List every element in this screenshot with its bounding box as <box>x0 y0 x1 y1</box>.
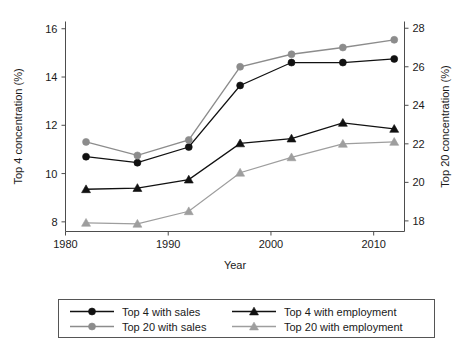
data-point <box>185 144 192 151</box>
y2-axis-tick-label: 22 <box>413 138 425 150</box>
series-line <box>86 40 394 156</box>
y2-axis-tick-label: 18 <box>413 215 425 227</box>
legend-item-label: Top 20 with sales <box>122 321 207 333</box>
data-point <box>237 63 244 70</box>
y2-axis-tick-label: 20 <box>413 176 425 188</box>
data-point <box>288 59 295 66</box>
data-point <box>391 36 398 43</box>
data-point <box>134 152 141 159</box>
series-3 <box>82 138 399 228</box>
data-point <box>237 82 244 89</box>
y2-axis-tick-label: 28 <box>413 22 425 34</box>
y-axis-tick-label: 14 <box>45 71 57 83</box>
data-point <box>185 136 192 143</box>
chart-svg: 8101214161820222426281980199020002010Top… <box>0 0 468 351</box>
series-line <box>86 59 394 163</box>
y-axis-tick-label: 16 <box>45 23 57 35</box>
data-point <box>184 207 193 215</box>
legend-circle-marker <box>89 308 96 315</box>
y-axis-tick-label: 8 <box>51 216 57 228</box>
legend-item-label: Top 20 with employment <box>284 321 403 333</box>
x-axis-title: Year <box>224 259 247 271</box>
data-point <box>184 175 193 183</box>
data-point <box>339 59 346 66</box>
y-axis-title: Top 4 concentration (%) <box>12 68 24 184</box>
data-point <box>83 138 90 145</box>
data-point <box>338 119 347 127</box>
axis-frame <box>66 22 405 232</box>
y2-axis-title: Top 20 concentration (%) <box>439 65 451 187</box>
x-axis-tick-label: 2000 <box>259 238 283 250</box>
y-axis-tick-label: 12 <box>45 119 57 131</box>
series-1 <box>82 119 399 193</box>
data-point <box>134 159 141 166</box>
legend-item-label: Top 4 with sales <box>122 306 201 318</box>
data-point <box>339 44 346 51</box>
y-axis-tick-label: 10 <box>45 168 57 180</box>
chart-figure: 8101214161820222426281980199020002010Top… <box>0 0 468 351</box>
y2-axis-tick-label: 26 <box>413 61 425 73</box>
x-axis-tick-label: 2010 <box>361 238 385 250</box>
data-point <box>83 153 90 160</box>
x-axis-tick-label: 1990 <box>156 238 180 250</box>
data-point <box>391 55 398 62</box>
y2-axis-tick-label: 24 <box>413 99 425 111</box>
legend-circle-marker <box>89 323 96 330</box>
legend-item-label: Top 4 with employment <box>284 306 397 318</box>
x-axis-tick-label: 1980 <box>53 238 77 250</box>
legend: Top 4 with salesTop 4 with employmentTop… <box>59 300 435 338</box>
series-0 <box>83 55 398 166</box>
data-point <box>288 51 295 58</box>
series-line <box>86 123 394 189</box>
